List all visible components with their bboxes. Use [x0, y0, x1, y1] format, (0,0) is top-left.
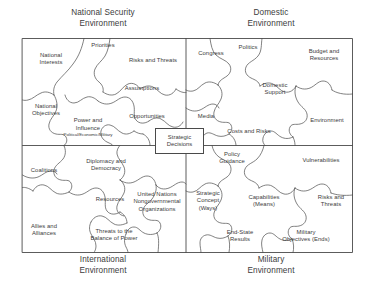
puzzle-piece-costs-and-risks: Costs and Risks — [218, 128, 280, 135]
puzzle-piece-opportunities: Opportunities — [116, 113, 178, 120]
puzzle-piece-politics: Politics — [226, 44, 270, 51]
strategic-decisions-box: Strategic Decisions — [155, 128, 204, 154]
puzzle-piece-diplomacy-and-democracy: Diplomacy and Democracy — [72, 158, 140, 173]
puzzle-piece-domestic-support: Domestic Support — [248, 82, 302, 97]
puzzle-piece-risks-and-threats: Risks and Threats — [120, 57, 186, 64]
puzzle-piece-strategic-concept-ways: Strategic Concept (Ways) — [186, 190, 230, 212]
puzzle-piece-risks-and-threats-military: Risks and Threats — [309, 194, 353, 209]
puzzle-piece-power-and-influence-label: Power and Influence — [74, 117, 103, 130]
puzzle-piece-coalitions: Coalitions — [20, 167, 68, 174]
quadrant-title-military: Military Environment — [196, 255, 346, 276]
puzzle-piece-environment: Environment — [300, 117, 354, 124]
puzzle-piece-united-nations-ngos: United Nations Nongovernmental Organizat… — [128, 191, 186, 213]
puzzle-piece-military-objectives-ends: Military Objectives (Ends) — [269, 229, 343, 244]
quadrant-title-national-security: National Security Environment — [28, 8, 178, 29]
quadrant-title-international: International Environment — [28, 255, 178, 276]
puzzle-piece-budget-and-resources: Budget and Resources — [298, 48, 350, 63]
puzzle-piece-capabilities-means: Capabilities (Means) — [236, 194, 292, 209]
strategic-decisions-label: Strategic Decisions — [167, 134, 193, 149]
strategic-decisions-puzzle-diagram: National Security Environment Domestic E… — [0, 0, 373, 287]
puzzle-piece-end-state-results: End-State Results — [212, 229, 268, 244]
puzzle-piece-assumptions: Assumptions — [112, 85, 172, 92]
puzzle-piece-priorities: Priorities — [76, 42, 130, 49]
puzzle-piece-power-and-influence: Power and Influence Political/Economic/M… — [55, 110, 121, 145]
puzzle-piece-threats-to-balance-of-power: Threats to the Balance of Power — [75, 228, 153, 243]
puzzle-piece-policy-guidance: Policy Guidance — [207, 151, 257, 166]
quadrant-title-domestic: Domestic Environment — [196, 8, 346, 29]
puzzle-piece-national-interests: National Interests — [22, 52, 80, 67]
puzzle-piece-power-and-influence-sublabel: Political/Economic/Military — [55, 132, 121, 138]
puzzle-piece-media: Media — [186, 113, 226, 120]
puzzle-piece-allies-and-alliances: Allies and Alliances — [20, 223, 68, 238]
puzzle-piece-vulnerabilities: Vulnerabilities — [290, 157, 352, 164]
